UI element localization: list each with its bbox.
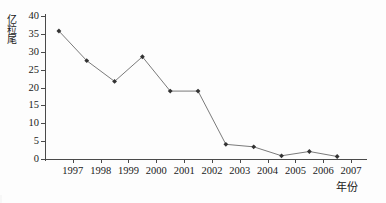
x-tick-mark <box>101 159 102 163</box>
data-point-marker <box>335 154 340 159</box>
x-tick-mark <box>184 159 185 163</box>
x-tick-mark <box>128 159 129 163</box>
x-tick-label: 2007 <box>341 166 362 177</box>
x-tick-mark <box>268 159 269 163</box>
plot-area: 0510152025303540 19971998199920002001200… <box>45 16 365 159</box>
x-tick-label: 1998 <box>90 166 111 177</box>
x-tick-label: 2006 <box>313 166 334 177</box>
y-tick-label: 25 <box>29 64 40 75</box>
x-axis-title: 年份 <box>336 178 358 194</box>
x-tick-label: 2001 <box>174 166 195 177</box>
data-point-marker <box>279 153 284 158</box>
y-axis-title: 亿粒尾 <box>2 14 16 44</box>
x-tick-mark <box>295 159 296 163</box>
x-tick-label: 2004 <box>257 166 278 177</box>
x-tick-label: 2002 <box>201 166 222 177</box>
data-point-marker <box>251 144 256 149</box>
y-tick-label: 40 <box>29 11 40 22</box>
y-tick-label: 20 <box>29 82 40 93</box>
x-tick-label: 1999 <box>118 166 139 177</box>
y-tick-label: 30 <box>29 47 40 58</box>
series-line <box>59 31 337 156</box>
x-axis-line <box>45 159 367 160</box>
x-tick-label: 2000 <box>146 166 167 177</box>
x-tick-mark <box>73 159 74 163</box>
x-tick-label: 2003 <box>229 166 250 177</box>
scan-artifact <box>0 195 386 203</box>
data-point-marker <box>196 89 201 94</box>
y-tick-label: 10 <box>29 118 40 129</box>
data-point-marker <box>307 149 312 154</box>
chart-figure: 亿粒尾 0510152025303540 1997199819992000200… <box>0 0 386 203</box>
x-tick-mark <box>240 159 241 163</box>
line-series <box>45 16 365 159</box>
y-tick-label: 15 <box>29 100 40 111</box>
x-tick-mark <box>323 159 324 163</box>
y-tick-label: 0 <box>34 154 39 165</box>
x-tick-mark <box>212 159 213 163</box>
y-tick-label: 5 <box>34 136 39 147</box>
data-point-marker <box>223 142 228 147</box>
y-tick-mark <box>41 159 45 160</box>
x-tick-label: 2005 <box>285 166 306 177</box>
x-tick-label: 1997 <box>62 166 83 177</box>
x-tick-mark <box>156 159 157 163</box>
x-tick-mark <box>351 159 352 163</box>
y-tick-label: 35 <box>29 29 40 40</box>
